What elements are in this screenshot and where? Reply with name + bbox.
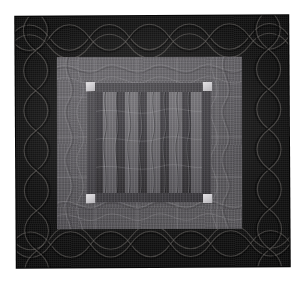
- cable-quilting-top-icon: [15, 17, 288, 59]
- bars-center-field: [96, 92, 202, 193]
- bar-6: [147, 92, 160, 193]
- corner-square-bottom-right: [203, 194, 212, 203]
- corner-square-top-right: [203, 82, 212, 91]
- bar-4: [125, 92, 138, 193]
- bar-5: [138, 92, 147, 193]
- corner-square-bottom-left: [86, 194, 95, 203]
- bar-8: [169, 92, 182, 193]
- photo-canvas: Photograph of a dark Amish-style Bars qu…: [0, 0, 302, 284]
- quilt-object: [15, 15, 290, 268]
- inner-gray-border: [57, 57, 242, 229]
- bar-3: [116, 92, 125, 193]
- bar-7: [160, 92, 169, 193]
- cable-quilting-bottom-icon: [17, 224, 290, 266]
- bar-9: [182, 92, 191, 193]
- cable-quilting-right-icon: [246, 15, 288, 266]
- cable-quilting-left-icon: [17, 17, 59, 268]
- bar-10: [191, 92, 202, 193]
- bar-2: [103, 92, 116, 193]
- corner-square-top-left: [86, 82, 95, 91]
- image-caption: Photograph of a dark Amish-style Bars qu…: [0, 0, 1, 1]
- sashing-frame: [87, 83, 211, 202]
